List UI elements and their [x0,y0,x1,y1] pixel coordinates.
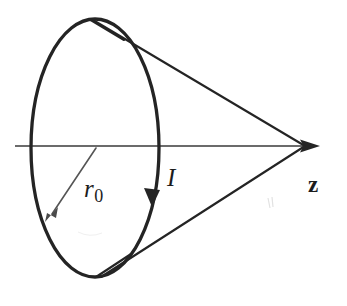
current-arrowhead [144,188,160,207]
scan-artifact-2 [78,232,102,235]
scan-artifact [268,197,273,208]
current-loop-diagram [0,0,347,306]
cone-upper-edge [93,20,305,146]
cone-lower-edge [101,146,305,277]
z-axis-group [15,140,320,153]
current-loop-ellipse [31,19,159,277]
radius-label-symbol: r [84,175,94,202]
cone-lower-tangent-chord [96,254,131,277]
radius-label: r0 [84,176,103,205]
current-arrow-group [144,188,160,207]
axis-label: z [308,173,318,196]
figure-canvas: r0 I z [0,0,347,306]
radius-label-subscript: 0 [94,186,103,206]
current-label: I [167,165,175,190]
